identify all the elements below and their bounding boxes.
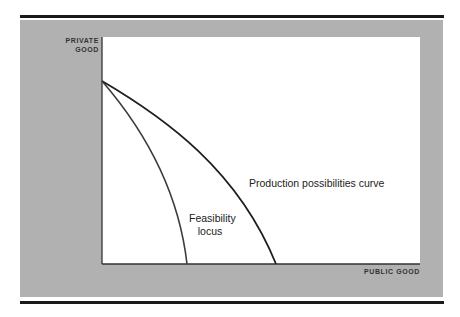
feasibility-label-line1: Feasibility xyxy=(189,212,231,225)
production-possibilities-label: Production possibilities curve xyxy=(249,177,384,190)
x-axis-label: PUBLIC GOOD xyxy=(364,267,420,276)
y-axis-label-line1: PRIVATE xyxy=(66,36,100,45)
feasibility-locus-label: Feasibility locus xyxy=(189,212,231,238)
y-axis-label-line2: GOOD xyxy=(66,45,100,54)
y-axis-label: PRIVATE GOOD xyxy=(66,36,100,54)
feasibility-label-line2: locus xyxy=(189,225,231,238)
bottom-rule xyxy=(20,301,444,304)
